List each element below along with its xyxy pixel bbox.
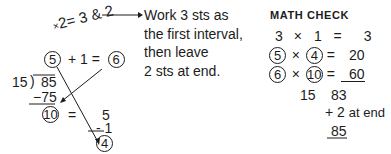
total-85: 85	[331, 124, 347, 138]
division-bracket: )	[30, 74, 35, 88]
sum-15: 15	[300, 88, 316, 102]
divisor: 15	[12, 75, 28, 89]
row-five-plus-one: 5 + 1 = 6	[44, 51, 125, 68]
instruction-note: Work 3 sts as the first interval, then l…	[144, 6, 243, 80]
circled-10: 10	[306, 66, 323, 83]
dividend: 85	[41, 75, 57, 89]
math-check-heading: MATH CHECK	[270, 9, 349, 21]
check-row-3: 6 × 10 = 60	[269, 66, 365, 83]
note-line-4: 2 sts at end.	[144, 62, 243, 81]
check-row-2: 5 × 4 = 20	[269, 47, 365, 64]
equals-sign: =	[68, 108, 76, 122]
sum-83: 83	[331, 88, 347, 102]
note-line-1: Work 3 sts as	[144, 6, 243, 25]
result-4: 4	[96, 135, 113, 152]
remainder-10: 10	[42, 106, 59, 123]
circled-6: 6	[108, 51, 125, 68]
circled-5: 5	[269, 47, 286, 64]
at-end-label: at end	[349, 105, 385, 120]
circled-6: 6	[269, 66, 286, 83]
circled-4: 4	[306, 47, 323, 64]
check-row-1: 3 × 1 = 3	[272, 29, 372, 43]
minus-one: - 1	[96, 121, 112, 135]
subtract-75: −75	[33, 90, 57, 104]
circled-5: 5	[44, 51, 61, 68]
note-line-2: the first interval,	[144, 25, 243, 44]
note-line-3: then leave	[144, 43, 243, 62]
plus-one-equals: + 1 =	[68, 51, 100, 67]
circled-10: 10	[42, 106, 59, 123]
plus-two: + 2 at end	[325, 105, 385, 120]
circled-4: 4	[96, 135, 113, 152]
